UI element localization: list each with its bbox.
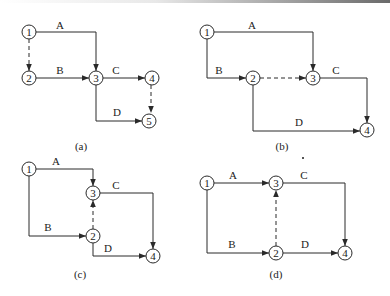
caption-a: (a) [75,140,88,153]
node-2: 2 [246,71,260,85]
node-2: 2 [86,229,100,243]
svg-text:2: 2 [250,72,256,84]
node-3: 3 [86,186,100,200]
activity-d-arrow [93,243,146,256]
activity-c-arrow [320,78,367,123]
node-1: 1 [22,162,36,176]
svg-text:4: 4 [149,72,155,84]
svg-text:3: 3 [273,177,279,189]
activity-label-c: C [112,64,119,76]
activity-b-arrow [29,176,86,236]
activity-label-c: C [332,64,339,76]
activity-label-b: B [44,221,51,233]
svg-text:1: 1 [26,26,32,38]
node-3: 3 [89,71,103,85]
activity-label-d: D [113,106,121,118]
svg-text:3: 3 [90,187,96,199]
node-4: 4 [146,249,160,263]
caption-b: (b) [276,140,289,153]
activity-d-arrow [253,85,360,131]
svg-text:2: 2 [26,72,32,84]
node-4: 4 [338,246,352,260]
activity-a-arrow [36,32,96,71]
activity-label-d: D [301,238,309,250]
speck [302,157,304,159]
activity-label-a: A [229,169,237,181]
svg-text:4: 4 [364,124,370,136]
node-4: 4 [360,123,374,137]
svg-text:1: 1 [204,26,210,38]
node-1: 1 [200,25,214,39]
network-diagrams-figure: A B C D 1 2 3 4 5 (a) A B C D 1 [0,0,390,296]
activity-label-a: A [52,155,60,167]
activity-c-arrow [283,183,345,246]
svg-text:4: 4 [342,247,348,259]
activity-b-arrow [207,190,269,253]
activity-label-a: A [56,19,64,31]
svg-text:5: 5 [146,115,152,127]
svg-text:4: 4 [150,250,156,262]
svg-text:1: 1 [26,163,32,175]
node-2: 2 [269,246,283,260]
node-3: 3 [269,176,283,190]
activity-a-arrow [214,32,313,71]
activity-b-arrow [207,39,246,78]
activity-c-arrow [100,193,153,249]
panel-b: A B C D 1 2 3 4 (b) [200,19,374,153]
node-3: 3 [306,71,320,85]
svg-text:3: 3 [93,72,99,84]
activity-a-arrow [36,169,93,186]
activity-label-a: A [248,19,256,31]
svg-text:2: 2 [273,247,279,259]
node-2: 2 [22,71,36,85]
node-1: 1 [200,176,214,190]
node-1: 1 [22,25,36,39]
activity-label-c: C [112,179,119,191]
caption-c: (c) [74,268,87,281]
activity-label-d: D [104,242,112,254]
activity-label-b: B [56,64,63,76]
activity-label-b: B [228,238,235,250]
activity-label-b: B [215,64,222,76]
svg-text:3: 3 [310,72,316,84]
node-4: 4 [145,71,159,85]
node-5: 5 [142,114,156,128]
activity-label-d: D [295,116,303,128]
activity-label-c: C [300,169,307,181]
svg-text:2: 2 [90,230,96,242]
caption-d: (d) [270,268,283,281]
panel-c: A B C D 1 3 2 4 (c) [22,155,160,281]
panel-d: A B C D 1 3 2 4 (d) [200,169,352,281]
panel-a: A B C D 1 2 3 4 5 (a) [22,19,159,153]
svg-text:1: 1 [204,177,210,189]
